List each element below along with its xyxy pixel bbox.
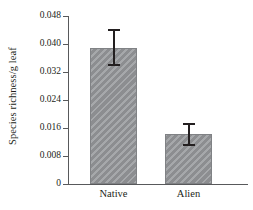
y-tick-label: 0.016 (20, 123, 61, 133)
x-tick-label-alien: Alien (149, 188, 229, 201)
x-axis-line (68, 184, 248, 185)
bar-native (90, 48, 137, 184)
y-tick-label: 0.048 (20, 11, 61, 21)
error-bar-cap-lower-native (108, 64, 120, 66)
y-tick-mark (63, 44, 68, 45)
y-tick-label: 0.040 (20, 39, 61, 49)
y-tick-label: 0.032 (20, 67, 61, 77)
y-axis-line (68, 16, 69, 185)
y-tick-label: 0 (20, 179, 61, 189)
y-tick-mark (63, 128, 68, 129)
y-tick-mark (63, 156, 68, 157)
error-bar-cap-lower-alien (183, 144, 195, 146)
y-tick-label: 0.024 (20, 95, 61, 105)
error-bar-stem-alien (188, 123, 190, 146)
y-tick-mark (63, 72, 68, 73)
error-bar-cap-upper-native (108, 29, 120, 31)
bar-chart-figure: Species richness/g leaf 00.0080.0160.024… (0, 0, 253, 210)
y-tick-mark (63, 184, 68, 185)
x-tick-label-native: Native (74, 188, 154, 201)
y-tick-mark (63, 100, 68, 101)
y-tick-mark (63, 16, 68, 17)
y-axis-title: Species richness/g leaf (4, 6, 20, 186)
y-tick-label: 0.008 (20, 151, 61, 161)
error-bar-stem-native (113, 29, 115, 66)
error-bar-cap-upper-alien (183, 123, 195, 125)
